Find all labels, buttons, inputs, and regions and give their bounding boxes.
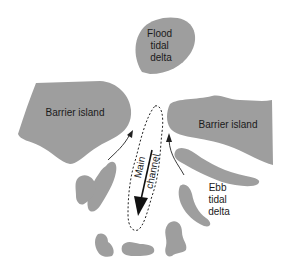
tidal-inlet-diagram: Flood tidal delta Barrier island Barrier… — [0, 0, 285, 270]
flood-flow-arrowhead-left — [127, 130, 133, 138]
ebb-delta-lobe-right-middle — [179, 184, 211, 226]
ebb-delta-lobe-bottom-middle — [122, 242, 155, 256]
ebb-delta-label: Ebb tidal delta — [208, 182, 230, 217]
left-barrier-label: Barrier island — [46, 107, 105, 118]
right-barrier-label: Barrier island — [199, 119, 258, 130]
main-channel-label-1: Main — [132, 156, 147, 180]
flood-flow-arrowhead-right — [166, 133, 172, 142]
ebb-flow-arrowhead — [134, 196, 148, 216]
flood-delta-label: Flood tidal delta — [147, 28, 175, 63]
ebb-delta-lobe-right-lower — [165, 221, 186, 256]
ebb-delta-lobe-bottom-left — [95, 233, 114, 256]
left-barrier-island-shape — [18, 81, 131, 164]
